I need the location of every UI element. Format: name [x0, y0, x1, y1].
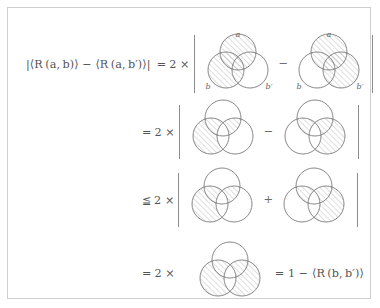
- equation-row-2: = 2 ×: [142, 98, 363, 166]
- label-a: a: [235, 30, 240, 39]
- row-1-left-delimiter: [194, 35, 195, 93]
- label-b-prime: b′: [357, 82, 364, 91]
- row-3-right-delimiter: [357, 173, 358, 227]
- row-3-diagram-2: [275, 166, 353, 234]
- row-1-factor: 2 ×: [169, 58, 189, 71]
- row-2-left-delimiter: [179, 105, 180, 159]
- row-2-diagram-2: [276, 98, 354, 166]
- equation-row-1: |⟨R (a, b)⟩ − ⟨R (a, b′)⟩| = 2 ×: [26, 26, 377, 102]
- row-3-relation: ≦: [142, 194, 151, 207]
- figure-frame: |⟨R (a, b)⟩ − ⟨R (a, b′)⟩| = 2 ×: [7, 7, 371, 299]
- label-b-prime: b′: [265, 82, 272, 91]
- row-1-relation: =: [157, 58, 166, 71]
- row-4-diagram-1: [191, 236, 269, 308]
- row-2-factor: 2 ×: [154, 126, 174, 139]
- label-b: b: [297, 82, 302, 91]
- row-2-middle-operator: −: [264, 124, 274, 138]
- row-2-diagram-1: [184, 98, 262, 166]
- row-3-diagram-1: [183, 166, 261, 234]
- label-b: b: [205, 82, 210, 91]
- row-4-factor: 2 ×: [154, 267, 174, 280]
- row-4-tail: = 1 − ⟨R (b, b′)⟩: [275, 267, 364, 280]
- row-1-right-delimiter: [372, 35, 373, 93]
- row-3-middle-operator: +: [263, 192, 273, 206]
- row-1-diagram-1: a b b′: [199, 26, 277, 102]
- equation-row-3: ≦ 2 ×: [142, 166, 362, 234]
- row-3-factor: 2 ×: [154, 194, 174, 207]
- row-1-diagram-2: a b b′: [290, 26, 368, 102]
- equation-row-4: = 2 ×: [142, 236, 364, 308]
- row-4-relation: =: [142, 267, 151, 280]
- row-1-lhs: |⟨R (a, b)⟩ − ⟨R (a, b′)⟩|: [26, 58, 151, 71]
- label-a: a: [327, 30, 332, 39]
- row-2-relation: =: [142, 126, 151, 139]
- row-3-left-delimiter: [178, 173, 179, 227]
- row-1-middle-operator: −: [279, 56, 289, 70]
- row-2-right-delimiter: [358, 105, 359, 159]
